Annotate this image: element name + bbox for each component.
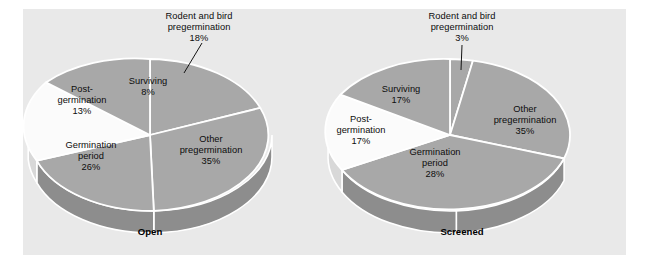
- label-open-rodent: Rodent and bird pregermination18%: [134, 11, 264, 44]
- label-open-germination: Germination period26%: [33, 140, 149, 173]
- label-open-other: Other pregermination35%: [152, 134, 270, 167]
- pie-chart-open: Rodent and bird pregermination18% Other …: [0, 0, 300, 246]
- caption-screened: Screened: [412, 226, 512, 237]
- label-screened-germination: Germination period28%: [377, 147, 493, 180]
- label-screened-post: Post- germination17%: [313, 114, 409, 147]
- label-screened-rodent: Rodent and bird pregermination3%: [397, 11, 527, 44]
- caption-open: Open: [100, 226, 200, 237]
- label-screened-other: Other pregermination35%: [466, 104, 584, 137]
- figure-root: Rodent and bird pregermination18% Other …: [0, 0, 649, 265]
- pie-chart-screened: Rodent and bird pregermination3% Other p…: [300, 0, 600, 246]
- label-screened-surviving: Surviving17%: [360, 84, 442, 106]
- label-open-surviving: Surviving8%: [107, 76, 189, 98]
